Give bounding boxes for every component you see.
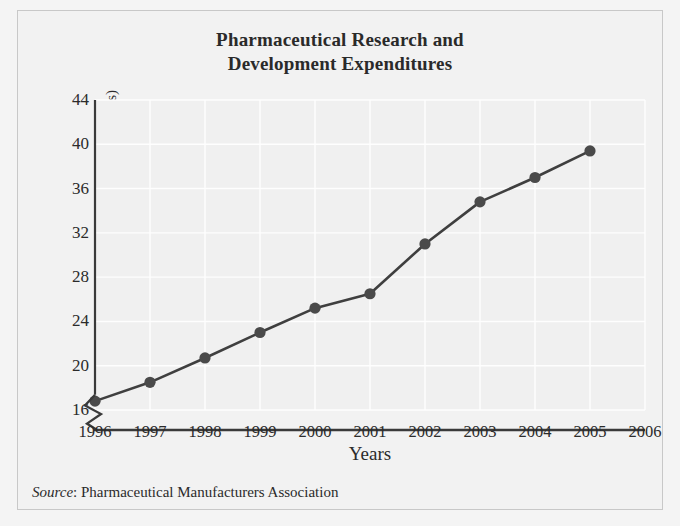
y-tick-label: 44 [53, 91, 89, 109]
y-tick-label: 24 [53, 312, 89, 330]
x-tick-label: 1998 [175, 422, 235, 442]
x-tick-label: 1999 [230, 422, 290, 442]
source-note: Source: Pharmaceutical Manufacturers Ass… [32, 484, 338, 501]
x-tick-label: 2004 [505, 422, 565, 442]
x-tick-label: 1997 [120, 422, 180, 442]
x-tick-label: 2001 [340, 422, 400, 442]
chart-title: Pharmaceutical Research and Development … [120, 28, 560, 76]
plot-area [95, 100, 645, 410]
x-tick-label: 2002 [395, 422, 455, 442]
x-tick-label: 2000 [285, 422, 345, 442]
y-tick-labels: 1620242832364044 [45, 0, 89, 526]
x-tick-label: 2003 [450, 422, 510, 442]
x-axis-label: Years [95, 443, 645, 465]
y-tick-label: 32 [53, 224, 89, 242]
y-tick-label: 20 [53, 357, 89, 375]
source-text: Pharmaceutical Manufacturers Association [81, 484, 338, 500]
source-label: Source [32, 484, 73, 500]
chart-title-line-1: Pharmaceutical Research and [120, 28, 560, 52]
x-tick-label: 1996 [65, 422, 125, 442]
source-separator: : [73, 484, 81, 500]
chart-figure: Pharmaceutical Research and Development … [0, 0, 680, 526]
axis-lines [95, 100, 645, 430]
y-tick-label: 40 [53, 135, 89, 153]
y-tick-label: 36 [53, 180, 89, 198]
x-tick-label: 2006 [615, 422, 675, 442]
y-tick-label: 28 [53, 268, 89, 286]
chart-title-line-2: Development Expenditures [120, 52, 560, 76]
x-tick-label: 2005 [560, 422, 620, 442]
y-tick-label: 16 [53, 401, 89, 419]
